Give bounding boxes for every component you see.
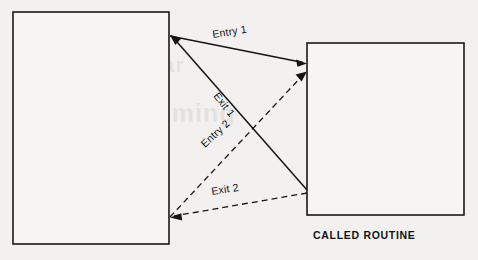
calling-routine-box[interactable] <box>13 12 169 244</box>
entry-1-label: Entry 1 <box>211 23 247 40</box>
exit-2-line <box>174 193 307 216</box>
entry-1-arrowhead <box>296 60 307 67</box>
entry-2-line <box>170 75 303 217</box>
flow-diagram: Modular Programming Entry 1 Exit 1 Entry… <box>0 0 478 260</box>
entry-1-line <box>170 36 303 63</box>
edge-entry-2[interactable]: Entry 2 <box>170 72 307 218</box>
diagram-canvas: Modular Programming Entry 1 Exit 1 Entry… <box>0 0 478 260</box>
exit-2-label: Exit 2 <box>210 181 239 197</box>
edge-entry-1[interactable]: Entry 1 <box>170 23 307 67</box>
called-routine-caption: CALLED ROUTINE <box>313 229 416 241</box>
entry-2-arrowhead <box>296 72 307 82</box>
called-routine-box[interactable] <box>307 43 464 215</box>
edge-exit-2[interactable]: Exit 2 <box>170 181 307 221</box>
